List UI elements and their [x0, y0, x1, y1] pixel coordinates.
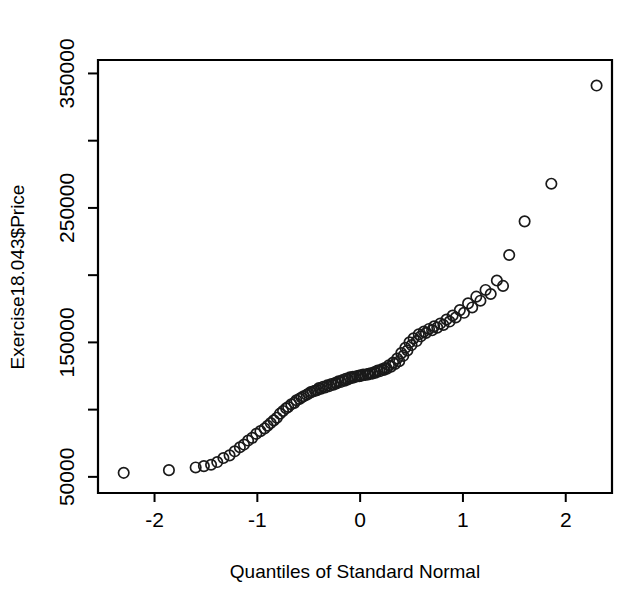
data-point [164, 465, 174, 475]
x-axis-title: Quantiles of Standard Normal [230, 561, 480, 582]
data-point [119, 468, 129, 478]
plot-canvas: -2-1012 50000150000250000350000 Quantile… [0, 0, 628, 594]
qq-plot-figure: -2-1012 50000150000250000350000 Quantile… [0, 0, 628, 594]
x-tick-label: -1 [248, 508, 267, 531]
y-axis-title: Exercise18.043$Price [7, 185, 28, 370]
data-point [591, 80, 601, 90]
y-tick-labels: 50000150000250000350000 [55, 38, 78, 506]
x-tick-label: -2 [145, 508, 164, 531]
y-tick-label: 150000 [55, 307, 78, 377]
axis-frame [98, 60, 612, 493]
data-point [519, 216, 529, 226]
plot-border [98, 60, 612, 493]
x-tick-label: 2 [560, 508, 572, 531]
x-tick-labels: -2-1012 [145, 508, 571, 531]
x-tick-label: 0 [354, 508, 366, 531]
y-tick-label: 250000 [55, 173, 78, 243]
tick-marks-group [88, 73, 566, 502]
data-points-group [119, 80, 602, 478]
data-point [206, 460, 216, 470]
data-point [546, 179, 556, 189]
y-tick-label: 50000 [55, 448, 78, 506]
data-point [504, 250, 514, 260]
x-tick-label: 1 [457, 508, 469, 531]
y-tick-label: 350000 [55, 38, 78, 108]
